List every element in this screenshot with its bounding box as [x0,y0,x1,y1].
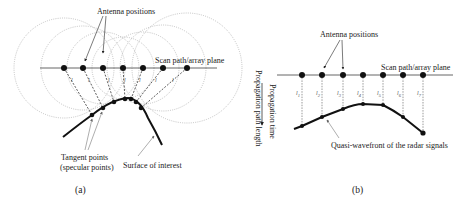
specular-points-label: (specular points) [60,163,114,172]
svg-text:l1: l1 [296,90,300,98]
caption-b: (b) [352,185,363,196]
panel-b: Propagation path length Propagation time… [254,30,453,196]
svg-text:l3: l3 [337,90,342,98]
specular-rays [64,68,187,115]
tangent-points-label: Tangent points [61,153,108,162]
svg-text:l2: l2 [316,90,321,98]
quasi-wavefront-label: Quasi-wavefront of the radar signals [331,141,448,150]
surface-of-interest-label: Surface of interest [123,161,182,170]
svg-text:l6: l6 [397,90,402,98]
svg-text:l: l [139,77,141,83]
ray-distance-marks: l l l l l l l [71,77,174,83]
surface-curve [63,98,162,145]
propagation-time-label: Propagation time [268,84,277,139]
diagram-canvas: l l l l l l l [0,0,460,202]
panel-a: l l l l l l l [14,7,242,196]
scan-path-label-b: Scan path/array plane [381,63,451,72]
svg-text:l7: l7 [417,90,422,98]
svg-text:l: l [124,77,126,83]
svg-text:l4: l4 [357,90,362,98]
svg-text:l: l [155,77,157,83]
caption-a: (a) [75,185,86,196]
antenna-positions-label-a: Antenna positions [97,7,155,16]
svg-text:l5: l5 [377,90,382,98]
svg-text:l: l [71,77,73,83]
antenna-positions-label-b: Antenna positions [320,30,378,39]
scan-path-label-a: Scan path/array plane [155,56,225,65]
svg-text:l: l [108,77,110,83]
distance-labels: l1 l2 l3 l4 l5 l6 l7 [296,90,422,98]
